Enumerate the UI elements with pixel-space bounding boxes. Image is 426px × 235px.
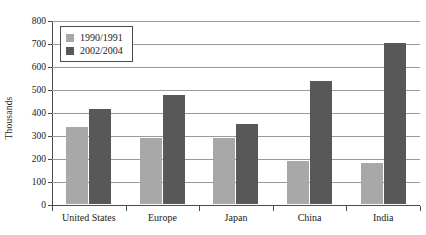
bar xyxy=(163,95,185,204)
legend-label-2002: 2002/2004 xyxy=(80,45,123,56)
legend-swatch-icon-1990 xyxy=(66,34,74,42)
y-axis-title-text: Thousands xyxy=(4,96,14,139)
x-axis-category-label: Europe xyxy=(148,212,177,223)
bar xyxy=(310,81,332,204)
y-axis-tick-label: 0 xyxy=(41,200,46,210)
x-axis-category-label: United States xyxy=(62,212,116,223)
bar-chart: Thousands 0100200300400500600700800 Unit… xyxy=(0,0,426,235)
legend-swatch-icon-2002 xyxy=(66,47,74,55)
y-axis-tick-label: 500 xyxy=(32,85,46,95)
bar xyxy=(66,127,88,204)
x-axis-line xyxy=(52,205,420,206)
bar-group xyxy=(126,21,200,205)
legend-item-2002: 2002/2004 xyxy=(66,44,123,57)
bar-group xyxy=(199,21,273,205)
y-axis-tick-label: 100 xyxy=(32,177,46,187)
bar xyxy=(213,138,235,204)
x-axis-category-label: Japan xyxy=(225,212,248,223)
bar xyxy=(89,109,111,204)
y-axis-tick-label: 400 xyxy=(32,108,46,118)
bar xyxy=(236,124,258,205)
y-axis-tick-label: 600 xyxy=(32,62,46,72)
x-axis-category-label: China xyxy=(298,212,322,223)
chart-legend: 1990/1991 2002/2004 xyxy=(60,26,133,62)
x-axis-tick-mark xyxy=(126,206,127,211)
bar xyxy=(361,163,383,204)
y-axis-tick-label: 200 xyxy=(32,154,46,164)
y-axis-title: Thousands xyxy=(2,0,16,235)
x-axis-tick-mark xyxy=(52,206,53,211)
y-axis-tick-label: 300 xyxy=(32,131,46,141)
x-axis-tick-mark xyxy=(199,206,200,211)
y-axis-tick-label: 800 xyxy=(32,16,46,26)
bar xyxy=(140,138,162,204)
x-axis-tick-mark xyxy=(420,206,421,211)
legend-label-1990: 1990/1991 xyxy=(80,32,123,43)
y-axis-tick-label: 700 xyxy=(32,39,46,49)
bar-group xyxy=(346,21,420,205)
bar xyxy=(287,161,309,204)
legend-item-1990: 1990/1991 xyxy=(66,31,123,44)
x-axis-tick-mark xyxy=(346,206,347,211)
bar-group xyxy=(273,21,347,205)
bar xyxy=(384,43,406,204)
x-axis-category-label: India xyxy=(373,212,394,223)
x-axis-tick-mark xyxy=(273,206,274,211)
